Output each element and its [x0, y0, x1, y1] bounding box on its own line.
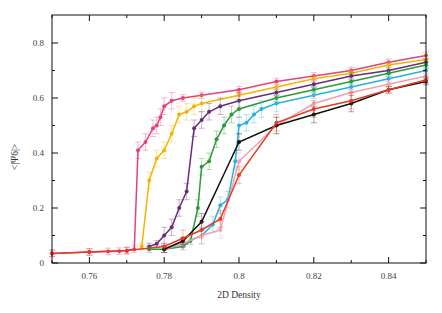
data-point: [200, 118, 204, 122]
data-point: [218, 217, 222, 221]
data-point: [207, 159, 211, 163]
phase-transition-chart: 0.760.780.80.820.84 00.20.40.60.8 2D Den…: [0, 0, 442, 313]
x-tick-label: 0.78: [156, 271, 172, 281]
y-tick-label: 0.4: [33, 148, 45, 158]
data-point: [181, 236, 185, 240]
data-point: [192, 126, 196, 130]
data-point: [170, 99, 174, 103]
data-point: [222, 124, 226, 128]
data-point: [125, 249, 129, 253]
data-point: [170, 132, 174, 136]
data-point: [170, 225, 174, 229]
y-axis: 00.20.40.60.8: [33, 38, 426, 268]
data-point: [218, 104, 222, 108]
data-point: [252, 113, 256, 117]
data-point: [177, 113, 181, 117]
data-point: [158, 115, 162, 119]
data-point: [162, 234, 166, 238]
data-point: [349, 80, 353, 84]
data-point: [87, 250, 91, 254]
data-point: [274, 91, 278, 95]
data-point: [312, 82, 316, 86]
data-point: [162, 245, 166, 249]
data-point: [192, 104, 196, 108]
data-point: [218, 228, 222, 232]
data-point: [237, 124, 241, 128]
data-point: [237, 88, 241, 92]
data-point: [387, 63, 391, 67]
data-point: [387, 77, 391, 81]
plot-area: [49, 52, 429, 257]
data-point: [155, 242, 159, 246]
data-point: [181, 96, 185, 100]
data-point: [237, 107, 241, 111]
data-point: [349, 99, 353, 103]
data-point: [387, 88, 391, 92]
data-point: [387, 71, 391, 75]
data-point: [155, 157, 159, 161]
data-point: [312, 88, 316, 92]
data-point: [230, 113, 234, 117]
data-point: [144, 140, 148, 144]
x-tick-label: 0.84: [381, 271, 397, 281]
data-point: [185, 110, 189, 114]
data-point: [140, 245, 144, 249]
data-point: [244, 121, 248, 125]
x-tick-label: 0.82: [306, 271, 322, 281]
data-point: [196, 206, 200, 210]
data-point: [215, 137, 219, 141]
y-tick-label: 0: [40, 258, 45, 268]
data-point: [312, 107, 316, 111]
x-tick-label: 0.8: [233, 271, 245, 281]
data-point: [218, 203, 222, 207]
data-point: [349, 74, 353, 78]
y-tick-label: 0.8: [33, 38, 45, 48]
data-point: [237, 140, 241, 144]
data-point: [147, 179, 151, 183]
data-point: [237, 173, 241, 177]
data-point: [237, 159, 241, 163]
data-point: [349, 85, 353, 89]
x-tick-label: 0.76: [82, 271, 98, 281]
data-point: [155, 124, 159, 128]
data-point: [185, 190, 189, 194]
data-point: [200, 102, 204, 106]
data-point: [151, 126, 155, 130]
data-point: [259, 107, 263, 111]
y-axis-label: <|Ψ6|>: [10, 144, 20, 170]
y-tick-label: 0.6: [33, 93, 45, 103]
data-point: [207, 110, 211, 114]
data-point: [387, 82, 391, 86]
data-point: [136, 148, 140, 152]
x-axis-label: 2D Density: [217, 290, 261, 300]
data-point: [162, 104, 166, 108]
data-point: [177, 206, 181, 210]
data-point: [162, 148, 166, 152]
data-point: [200, 228, 204, 232]
data-point: [274, 102, 278, 106]
data-point: [200, 165, 204, 169]
data-point: [312, 77, 316, 81]
data-point: [274, 80, 278, 84]
y-tick-label: 0.2: [33, 203, 44, 213]
data-point: [274, 85, 278, 89]
data-point: [274, 121, 278, 125]
data-point: [233, 159, 237, 163]
